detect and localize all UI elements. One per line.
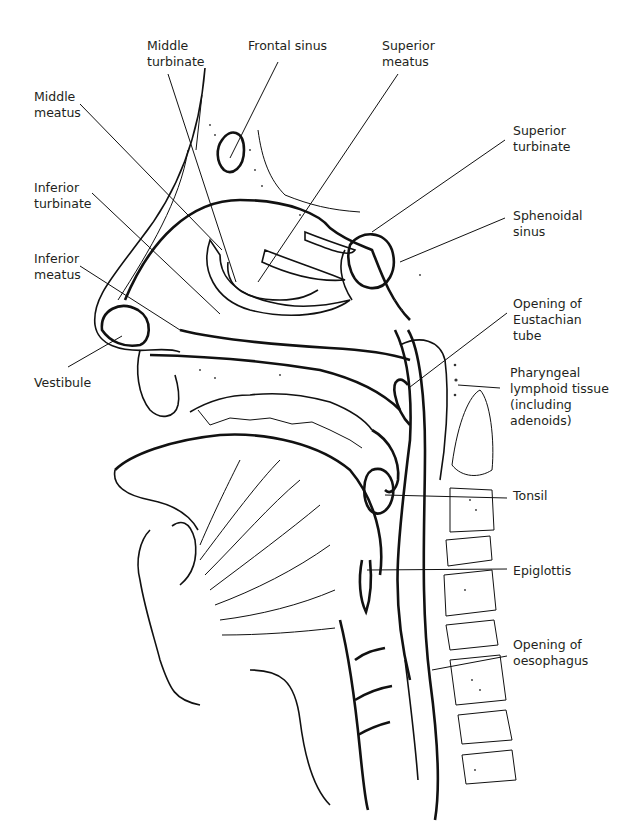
pharynx-posterior-wall [408,330,438,820]
label-sphenoidal-sinus: Sphenoidal sinus [513,208,583,240]
leader-opening-eustachian-tube [410,313,507,387]
upper-teeth [190,394,372,430]
tongue-muscle-fibres [200,460,335,635]
label-pharyngeal-lymphoid-tissue: Pharyngeal lymphoid tissue (including ad… [510,365,609,429]
leader-pharyngeal-lymphoid-tissue [458,385,500,388]
label-opening-eustachian-tube: Opening of Eustachian tube [513,296,582,344]
leader-superior-meatus [258,74,398,282]
leader-superior-turbinate [372,140,505,232]
tongue [115,435,381,575]
sphenoid-inner [341,250,352,300]
leader-sphenoidal-sinus [400,218,505,262]
nasal-floor [180,330,410,360]
label-middle-meatus: Middle meatus [34,89,81,121]
larynx-fold-2 [355,686,392,700]
larynx-front [340,620,368,810]
cervical-spine [444,390,516,784]
epiglottis-shape [360,560,371,612]
lower-lip [138,530,200,705]
label-opening-oesophagus: Opening of oesophagus [513,637,588,669]
label-epiglottis: Epiglottis [513,563,571,579]
oesophagus-line [405,660,418,780]
upper-teeth-crowns [198,410,362,448]
eustachian-tube-opening [394,380,410,425]
upper-lip [138,350,179,416]
stippling [199,124,481,771]
label-vestibule: Vestibule [34,375,91,391]
label-tonsil: Tonsil [513,488,548,504]
soft-palate [372,430,398,492]
tongue-lower [115,470,198,530]
forehead-bone [258,130,360,212]
larynx-fold-1 [355,648,385,660]
chin-inner [172,523,196,585]
label-inferior-meatus: Inferior meatus [34,251,81,283]
leader-epiglottis [367,569,507,570]
hard-palate [150,355,400,410]
nostril [102,306,149,346]
middle-turbinate-shape [262,250,345,280]
label-superior-turbinate: Superior turbinate [513,123,571,155]
pharynx-anterior-wall [395,330,411,680]
leader-middle-meatus [80,104,222,250]
label-inferior-turbinate: Inferior turbinate [34,180,92,212]
label-middle-turbinate: Middle turbinate [147,38,205,70]
label-superior-meatus: Superior meatus [382,38,435,70]
larynx-fold-3 [358,722,390,735]
leader-vestibule [68,336,122,367]
neck-front [250,670,330,805]
leader-frontal-sinus [230,62,278,158]
anatomy-diagram: Middle turbinate Frontal sinus Superior … [0,0,624,839]
leader-inferior-turbinate [92,193,220,314]
middle-concha [228,262,318,300]
label-frontal-sinus: Frontal sinus [248,38,327,54]
superior-turbinate-shape [305,232,355,253]
